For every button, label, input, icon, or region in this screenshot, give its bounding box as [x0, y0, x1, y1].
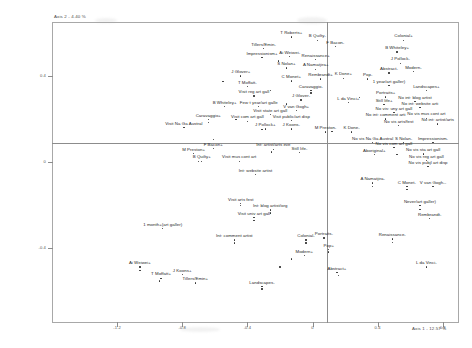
- data-point-marker: [310, 90, 311, 91]
- data-point-label: Abstract+: [327, 266, 346, 271]
- data-point-marker: [426, 90, 427, 91]
- data-point-marker: [437, 123, 438, 124]
- data-point-marker: [296, 110, 297, 111]
- data-point-marker: [253, 217, 254, 218]
- data-point-marker: [317, 40, 318, 41]
- data-point-marker: [392, 238, 393, 239]
- data-point-marker: [419, 209, 420, 210]
- data-point-label: J Pollock+: [255, 122, 275, 127]
- data-point-label: 1 year/art galler): [373, 79, 406, 84]
- data-point-marker: [247, 121, 248, 122]
- data-point-marker: [253, 95, 254, 96]
- data-point-label: T Moffatt-: [238, 80, 257, 85]
- data-point-label: Caravaggio-: [299, 84, 323, 89]
- data-point-marker: [413, 71, 414, 72]
- data-point-marker: [426, 266, 427, 267]
- data-point-label: 1 month+(art galler): [143, 222, 182, 227]
- data-point-marker: [432, 186, 433, 187]
- data-point-marker: [160, 278, 161, 279]
- data-point-label: C Monet+: [282, 74, 301, 79]
- data-point-marker: [299, 152, 300, 153]
- data-point-marker: [234, 239, 235, 240]
- data-point-label: F Bacon-: [326, 40, 344, 45]
- data-point-marker: [427, 166, 428, 167]
- data-point-marker: [213, 139, 214, 140]
- x-tick-label: -0.4: [235, 325, 259, 330]
- data-point-marker: [305, 239, 306, 240]
- data-point-marker: [286, 67, 287, 68]
- data-point-marker: [279, 266, 280, 267]
- data-point-marker: [208, 119, 209, 120]
- x-tick-label: -1.2: [105, 325, 129, 330]
- data-point-marker: [351, 131, 352, 132]
- data-point-label: J Pollock-: [391, 56, 410, 61]
- data-point-marker: [263, 48, 264, 49]
- data-point-label: No int: blog artist: [398, 95, 432, 100]
- x-tick-label: 0.4: [366, 325, 390, 330]
- data-point-marker: [162, 228, 163, 229]
- data-point-marker: [240, 203, 241, 204]
- data-point-label: Still life-: [292, 146, 308, 151]
- data-point-marker: [247, 86, 248, 87]
- data-point-label: No vis pubjl art disp: [409, 160, 448, 165]
- y-tick-label: 0: [24, 159, 46, 164]
- data-point-marker: [419, 107, 420, 108]
- data-point-marker: [398, 125, 399, 126]
- data-point-marker: [239, 161, 240, 162]
- data-point-marker: [201, 161, 202, 162]
- data-point-marker: [291, 36, 292, 37]
- data-point-marker: [396, 154, 397, 155]
- data-point-marker: [403, 40, 404, 41]
- data-point-label: No vis: uny art gall: [376, 106, 413, 111]
- data-point-label: Visit state art gall: [253, 108, 287, 113]
- data-point-label: J Glover+: [231, 69, 250, 74]
- data-point-marker: [265, 128, 266, 129]
- data-point-label: Colonial+: [394, 33, 413, 38]
- y-tick-mark: [48, 248, 53, 249]
- data-point-marker: [315, 59, 316, 60]
- data-point-marker: [261, 286, 262, 287]
- data-point-label: L da Vinci-: [416, 260, 437, 265]
- data-point-label: A Namatjira+: [303, 62, 329, 67]
- data-point-label: No vis Na Ga Austral: [352, 136, 393, 141]
- data-point-label: J Koons-: [283, 122, 301, 127]
- x-tick-label: 0: [301, 325, 325, 330]
- data-point-marker: [271, 151, 272, 152]
- data-point-marker: [208, 122, 209, 123]
- data-point-label: A Namatjira-: [360, 176, 385, 181]
- data-point-marker: [270, 90, 271, 91]
- data-point-label: Visit reg art gall: [239, 89, 270, 94]
- data-point-label: L da Vinci+: [337, 96, 359, 101]
- data-point-label: Portraits+: [376, 90, 395, 95]
- data-point-marker: [392, 242, 393, 243]
- data-point-label: Visit com art gall: [231, 114, 264, 119]
- data-point-label: K Done+: [335, 71, 352, 76]
- data-point-label: M Preston+: [182, 147, 205, 152]
- data-point-label: S Nolan-: [395, 136, 412, 141]
- data-point-marker: [305, 242, 306, 243]
- data-point-marker: [338, 275, 339, 276]
- data-point-label: M Preston-: [315, 125, 337, 130]
- data-point-label: Colonial-: [297, 233, 315, 238]
- data-point-marker: [400, 63, 401, 64]
- data-point-marker: [388, 72, 389, 73]
- data-point-label: Visit arts fest: [228, 197, 254, 202]
- data-point-label: B Whiteley+: [213, 100, 237, 105]
- data-point-label: Visit public/art disp: [273, 114, 310, 119]
- data-point-label: No vis com art gall: [376, 141, 413, 146]
- data-point-marker: [213, 148, 214, 149]
- data-point-marker: [139, 270, 140, 271]
- data-point-label: C Monet-: [398, 180, 416, 185]
- data-point-marker: [328, 249, 329, 250]
- data-point-label: Int: comment artist: [216, 233, 253, 238]
- data-point-label: Impressionism-: [418, 136, 448, 141]
- data-point-marker: [320, 78, 321, 79]
- data-point-label: Rembrandt+: [308, 72, 333, 77]
- data-point-marker: [240, 75, 241, 76]
- data-point-marker: [183, 127, 184, 128]
- data-point-label: No vis reg art gall: [409, 154, 444, 159]
- data-point-label: No vis sta art gall: [406, 147, 440, 152]
- data-point-marker: [419, 205, 420, 206]
- data-point-label: Ai Weiwei+: [129, 260, 151, 265]
- data-point-marker: [261, 57, 262, 58]
